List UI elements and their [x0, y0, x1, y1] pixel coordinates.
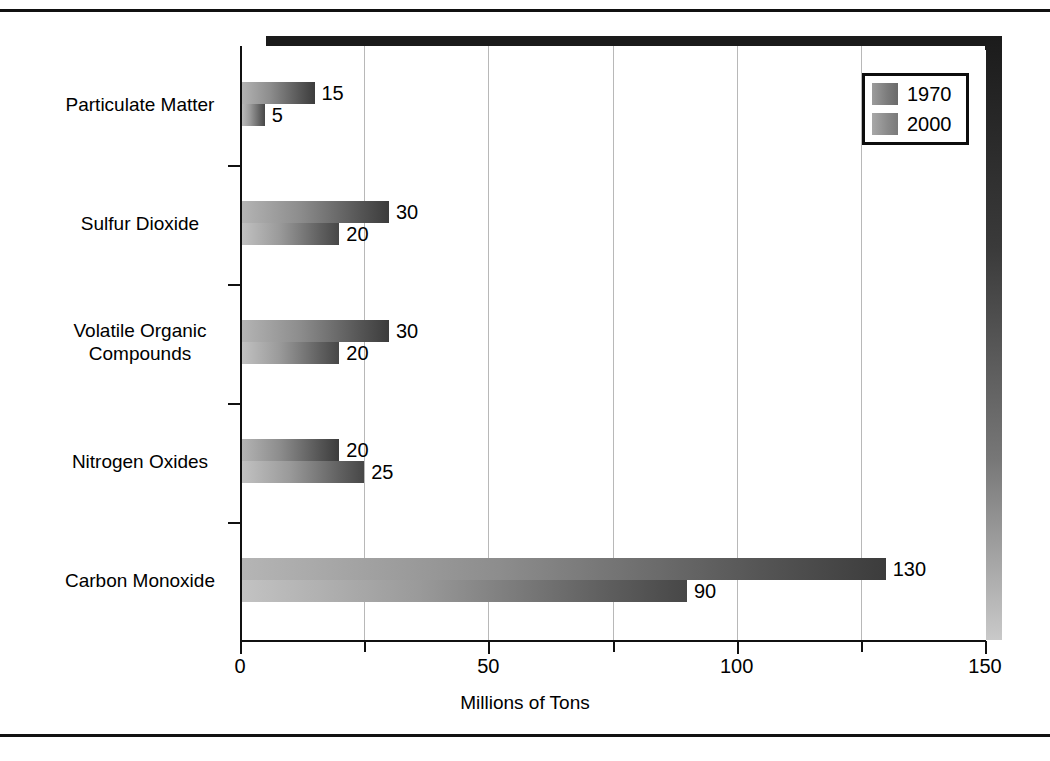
chart-legend: 1970 2000 [862, 73, 969, 145]
x-axis-tick-label: 150 [945, 655, 1025, 678]
x-axis-tick [985, 641, 987, 654]
x-axis-tick-label: 0 [200, 655, 280, 678]
gridline [613, 46, 614, 641]
y-axis-tick [228, 284, 241, 286]
bar-value-label: 30 [396, 320, 418, 342]
x-axis-tick [737, 641, 739, 654]
bar-value-label: 30 [396, 201, 418, 223]
category-label: Nitrogen Oxides [20, 449, 260, 472]
category-label: Sulfur Dioxide [20, 211, 260, 234]
legend-label-1970: 1970 [907, 83, 952, 106]
legend-entry-1970: 1970 [872, 81, 952, 107]
category-label-line: Compounds [20, 342, 260, 365]
category-label-line: Volatile Organic [20, 319, 260, 342]
bar-value-label: 90 [694, 580, 716, 602]
bar-value-label: 25 [371, 461, 393, 483]
category-label-line: Sulfur Dioxide [20, 211, 260, 234]
category-label: Particulate Matter [20, 92, 260, 115]
bottom-divider-rule [0, 734, 1050, 737]
category-label-line: Carbon Monoxide [20, 568, 260, 591]
x-axis-tick [861, 641, 863, 652]
chart-figure: 050100150 Particulate MatterSulfur Dioxi… [0, 0, 1050, 761]
bar-value-label: 20 [346, 342, 368, 364]
bar-1970 [240, 558, 886, 580]
x-axis-title: Millions of Tons [0, 692, 1050, 714]
category-label: Volatile OrganicCompounds [20, 319, 260, 365]
y-axis-tick [228, 403, 241, 405]
x-axis-tick-label: 50 [448, 655, 528, 678]
x-axis-tick [613, 641, 615, 652]
legend-swatch-icon-2000 [872, 113, 898, 135]
legend-label-2000: 2000 [907, 113, 952, 136]
y-axis-tick [228, 522, 241, 524]
y-axis-tick [228, 165, 241, 167]
x-axis-tick [364, 641, 366, 652]
bar-value-label: 20 [346, 223, 368, 245]
category-label-line: Nitrogen Oxides [20, 449, 260, 472]
bar-value-label: 20 [346, 439, 368, 461]
bar-1970 [240, 201, 389, 223]
gridline [737, 46, 738, 641]
legend-swatch-icon-1970 [872, 83, 898, 105]
legend-entry-2000: 2000 [872, 111, 952, 137]
x-axis-tick [240, 641, 242, 654]
x-axis-tick-label: 100 [697, 655, 777, 678]
bar-1970 [240, 320, 389, 342]
bar-2000 [240, 580, 687, 602]
bar-value-label: 130 [893, 558, 926, 580]
bar-value-label: 5 [272, 104, 283, 126]
x-axis-tick [488, 641, 490, 654]
top-divider-rule [0, 9, 1050, 12]
category-label: Carbon Monoxide [20, 568, 260, 591]
gridline [488, 46, 489, 641]
plot-right-wall-3d [986, 36, 1002, 640]
category-label-line: Particulate Matter [20, 92, 260, 115]
bar-value-label: 15 [322, 82, 344, 104]
